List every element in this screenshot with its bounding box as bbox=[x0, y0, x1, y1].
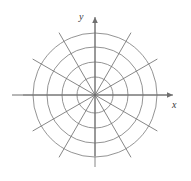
radial-line-330deg bbox=[95, 95, 157, 131]
axes-group bbox=[12, 17, 173, 156]
radial-line-150deg bbox=[33, 59, 95, 95]
x-axis-arrowhead bbox=[167, 92, 173, 98]
radial-line-300deg bbox=[95, 95, 131, 157]
radial-line-210deg bbox=[33, 95, 95, 131]
polar-grid-figure: y x bbox=[0, 0, 191, 181]
radial-line-60deg bbox=[95, 33, 131, 95]
radial-line-30deg bbox=[95, 59, 157, 95]
polar-grid-canvas bbox=[0, 0, 191, 181]
x-axis-label: x bbox=[172, 100, 176, 110]
radial-line-120deg bbox=[59, 33, 95, 95]
radial-line-240deg bbox=[59, 95, 95, 157]
y-axis-arrowhead bbox=[92, 17, 98, 23]
y-axis-label: y bbox=[79, 12, 83, 22]
